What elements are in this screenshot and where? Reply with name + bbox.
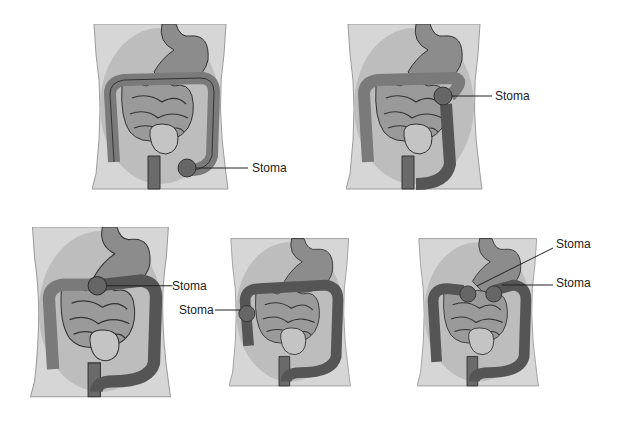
stoma-label: Stoma [172, 280, 207, 292]
stoma-label: Stoma [495, 90, 530, 102]
stoma-marker [88, 276, 107, 295]
stoma-label: Stoma [179, 304, 214, 316]
diagram-panel-1: Stoma [92, 24, 262, 190]
stoma-label-upper: Stoma [556, 238, 591, 250]
diagram-panel-5: Stoma Stoma [417, 227, 542, 402]
stoma-marker [434, 87, 452, 105]
stoma-marker [178, 159, 196, 177]
abdomen-illustration [229, 227, 354, 402]
diagram-panel-2: Stoma [346, 24, 486, 190]
stoma-label-lower: Stoma [556, 277, 591, 289]
diagram-panel-4: Stoma [229, 227, 354, 402]
abdomen-illustration [346, 24, 486, 190]
abdomen-illustration [92, 24, 262, 190]
stoma-label: Stoma [252, 162, 287, 174]
abdomen-illustration [30, 227, 175, 402]
diagram-panel-3: Stoma [30, 227, 175, 402]
